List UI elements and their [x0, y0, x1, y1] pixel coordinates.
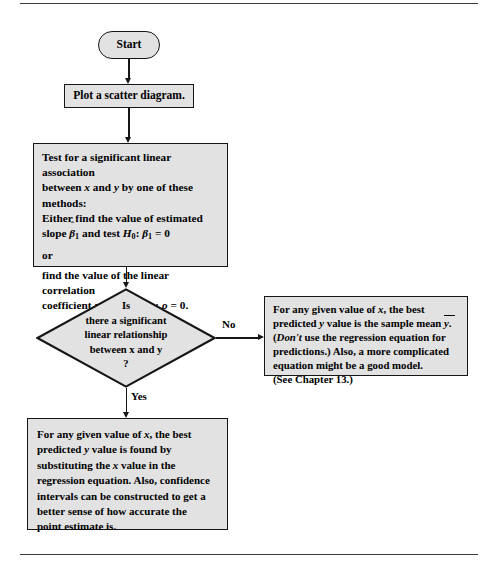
connector-scatter-to-test — [128, 108, 130, 137]
no-result-line-3b: use the regression equation for — [302, 331, 446, 343]
yes-result-line-3a: substituting the — [37, 459, 113, 471]
decision-diamond-node: Is there a significant linear relationsh… — [36, 288, 216, 388]
test-node-spacer-2 — [42, 264, 220, 268]
test-node-line-2c: by one of these — [119, 181, 193, 193]
connector-decision-to-yes-result — [126, 388, 128, 412]
no-branch-result-node: For any given value of x, the best predi… — [264, 296, 468, 376]
test-significance-node: Test for a significant linear associatio… — [33, 143, 228, 267]
no-result-line-1b: , the best — [383, 303, 424, 315]
branch-label-yes: Yes — [131, 390, 147, 402]
no-result-line-6: (See Chapter 13.) — [273, 373, 353, 385]
no-result-emphasis-dont: Don't — [277, 331, 302, 343]
test-node-line-5d: = 0 — [152, 227, 170, 239]
decision-node-label: Is there a significant linear relationsh… — [36, 299, 216, 372]
test-node-line-2a: between — [42, 181, 84, 193]
test-node-H-symbol: H — [123, 227, 132, 239]
test-node-spacer-1 — [42, 244, 220, 248]
yes-result-line-4: regression equation. Also, confidence — [37, 474, 210, 486]
y-bar-symbol: y — [444, 317, 449, 329]
test-node-line-5a: slope — [42, 227, 69, 239]
top-divider-rule — [20, 3, 478, 4]
yes-branch-result-node: For any given value of x, the best predi… — [27, 418, 228, 530]
yes-result-line-3b: value in the — [118, 459, 175, 471]
yes-result-line-2b: value is found by — [89, 443, 172, 455]
no-result-line-2b: value is the sample mean — [324, 317, 444, 329]
test-node-line-2b: and — [90, 181, 114, 193]
connector-decision-to-no-result — [216, 337, 258, 339]
connector-test-to-decision — [126, 267, 128, 282]
no-result-line-2c: . — [449, 317, 452, 329]
yes-result-line-5: intervals can be constructed to get a — [37, 490, 206, 502]
scatter-node-label: Plot a scatter diagram. — [65, 85, 193, 106]
test-node-line-4: Either find the value of estimated — [42, 212, 203, 224]
no-result-line-2a: predicted — [273, 317, 319, 329]
yes-result-line-2a: predicted — [37, 443, 84, 455]
no-result-y-bar: y — [444, 317, 449, 331]
start-terminator-node: Start — [98, 31, 160, 59]
test-node-line-5b: and test — [79, 227, 123, 239]
test-node-line-6: or — [42, 249, 53, 261]
test-node-line-1: Test for a significant linear associatio… — [42, 151, 171, 178]
start-node-label: Start — [99, 32, 159, 57]
branch-label-no: No — [222, 318, 235, 330]
yes-result-line-7: point estimate is. — [37, 520, 116, 532]
overbar-accent-icon — [444, 315, 455, 316]
yes-result-line-6: better sense of how accurate the — [37, 505, 187, 517]
test-node-beta-hat: ˆβ — [69, 226, 75, 241]
scatter-diagram-node: Plot a scatter diagram. — [64, 84, 194, 108]
no-result-line-1a: For any given value of — [273, 303, 378, 315]
yes-result-line-1b: , the best — [150, 428, 192, 440]
no-result-line-4: predictions.) Also, a more complicated — [273, 345, 449, 357]
yes-result-line-1a: For any given value of — [37, 428, 144, 440]
connector-start-to-scatter — [128, 59, 130, 78]
flowchart-page: Start Plot a scatter diagram. Test for a… — [0, 0, 497, 565]
test-node-line-3: methods: — [42, 197, 87, 209]
no-result-line-5: equation might be a good model. — [273, 359, 423, 371]
hat-accent-icon: ˆ — [70, 221, 76, 230]
bottom-divider-rule — [20, 554, 478, 555]
